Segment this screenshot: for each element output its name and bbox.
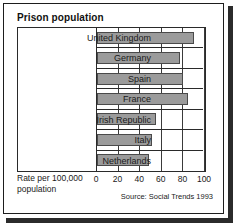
x-tick-label-20: 20 [107,174,129,184]
x-axis-title: Rate per 100,000 population [17,173,103,194]
chart-title: Prison population [17,12,104,23]
x-axis-title-line2: population [17,184,103,195]
category-label-united-kingdom: United Kingdom [87,28,151,48]
category-label-netherlands: Netherlands [102,151,151,171]
x-tick-label-100: 100 [193,174,215,184]
frame-shadow-right [228,6,233,223]
x-tick-label-80: 80 [171,174,193,184]
frame-shadow-bottom [6,218,233,223]
category-label-italy: Italy [134,130,151,150]
category-label-france: France [123,89,151,109]
category-label-irish-republic: Irish Republic [96,110,151,130]
x-axis-title-line1: Rate per 100,000 [17,173,103,184]
source-note: Source: Social Trends 1993 [121,192,213,201]
x-tick-label-40: 40 [128,174,150,184]
figure-root: Prison population 020406080100 United Ki… [0,0,233,223]
gridline-100 [204,28,205,171]
category-label-germany: Germany [114,48,151,68]
x-tick-label-60: 60 [150,174,172,184]
category-label-spain: Spain [128,69,151,89]
category-label-gutter [18,28,96,171]
